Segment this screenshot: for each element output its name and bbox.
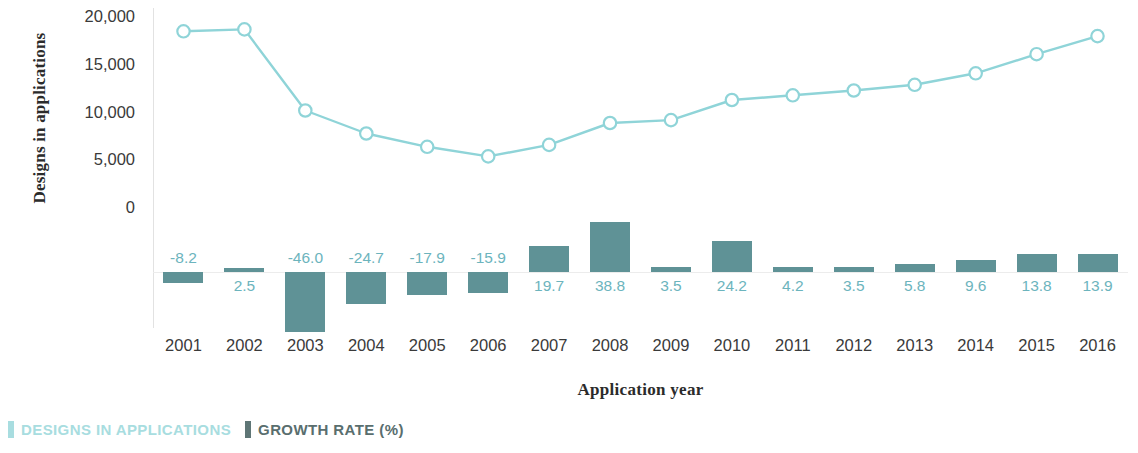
y-axis-tick: 10,000 bbox=[85, 102, 135, 121]
y-axis-tick: 20,000 bbox=[85, 7, 135, 26]
line-marker bbox=[360, 127, 372, 139]
chart-legend: DESIGNS IN APPLICATIONSGROWTH RATE (%) bbox=[8, 421, 404, 438]
x-axis-tick: 2013 bbox=[896, 336, 933, 355]
line-marker bbox=[482, 150, 494, 162]
line-marker bbox=[726, 94, 738, 106]
legend-label: DESIGNS IN APPLICATIONS bbox=[21, 421, 231, 438]
x-axis-title: Application year bbox=[153, 380, 1128, 400]
line-marker bbox=[177, 25, 189, 37]
line-marker bbox=[421, 141, 433, 153]
x-axis-tick: 2006 bbox=[470, 336, 507, 355]
x-axis-tick: 2016 bbox=[1079, 336, 1116, 355]
line-marker bbox=[604, 117, 616, 129]
line-marker bbox=[299, 104, 311, 116]
legend-swatch-icon bbox=[8, 421, 14, 438]
x-axis-tick: 2015 bbox=[1018, 336, 1055, 355]
line-marker bbox=[543, 139, 555, 151]
line-marker bbox=[665, 114, 677, 126]
legend-label-unit: (%) bbox=[379, 421, 404, 438]
combo-chart: Designs in applications 20,00015,00010,0… bbox=[0, 0, 1138, 453]
x-axis-tick: 2014 bbox=[957, 336, 994, 355]
line-path bbox=[184, 29, 1098, 156]
legend-swatch-icon bbox=[245, 421, 251, 438]
y-axis-tick: 0 bbox=[126, 198, 135, 217]
y-axis-tick: 15,000 bbox=[85, 54, 135, 73]
x-axis-tick: 2001 bbox=[165, 336, 202, 355]
plot-area: -8.22.5-46.0-24.7-17.9-15.919.738.83.524… bbox=[153, 8, 1128, 328]
line-marker bbox=[1030, 48, 1042, 60]
line-marker bbox=[1091, 30, 1103, 42]
x-axis-tick: 2002 bbox=[226, 336, 263, 355]
x-axis-tick-labels: 2001200220032004200520062007200820092010… bbox=[153, 336, 1128, 360]
line-series-designs-in-applications bbox=[153, 8, 1128, 328]
x-axis-tick: 2004 bbox=[348, 336, 385, 355]
x-axis-tick: 2012 bbox=[835, 336, 872, 355]
line-marker bbox=[787, 89, 799, 101]
line-marker bbox=[238, 23, 250, 35]
x-axis-tick: 2011 bbox=[775, 336, 810, 355]
x-axis-tick: 2007 bbox=[531, 336, 568, 355]
legend-item[interactable]: GROWTH RATE (%) bbox=[245, 421, 404, 438]
y-axis-tick: 5,000 bbox=[94, 150, 135, 169]
line-marker bbox=[970, 67, 982, 79]
x-axis-tick: 2003 bbox=[287, 336, 324, 355]
line-marker bbox=[909, 79, 921, 91]
legend-label: GROWTH RATE (%) bbox=[258, 421, 404, 438]
x-axis-tick: 2009 bbox=[653, 336, 690, 355]
legend-item[interactable]: DESIGNS IN APPLICATIONS bbox=[8, 421, 231, 438]
y-axis-tick-labels: 20,00015,00010,0005,0000 bbox=[40, 0, 143, 290]
line-marker bbox=[848, 84, 860, 96]
x-axis-tick: 2010 bbox=[714, 336, 751, 355]
x-axis-tick: 2008 bbox=[592, 336, 629, 355]
x-axis-tick: 2005 bbox=[409, 336, 446, 355]
